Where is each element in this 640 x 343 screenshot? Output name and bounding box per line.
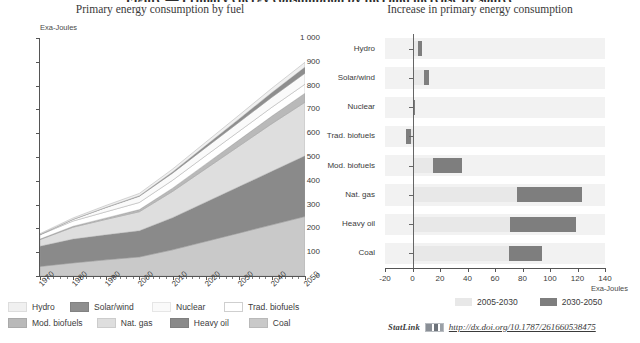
bar-segment-mod-biofuels-2030-2050	[433, 158, 462, 173]
left-x-tick-mark	[298, 276, 299, 279]
legend-label: 2005-2030	[477, 297, 518, 307]
left-x-tick-mark	[159, 276, 160, 279]
right-x-tick-label: 40	[454, 274, 482, 283]
bar-row-band-trad-biofuels	[385, 126, 605, 147]
left-x-tick-mark	[265, 276, 266, 279]
legend-swatch	[97, 318, 116, 328]
statlink-barcode-icon	[425, 323, 444, 332]
left-y-tick-mark	[36, 62, 40, 63]
bar-segment-coal-2005-2030	[413, 246, 509, 261]
legend-swatch	[8, 302, 27, 312]
right-x-tick-mark	[523, 268, 524, 272]
left-y-tick-label: 400	[292, 176, 320, 185]
left-y-axis-unit: Exa-Joules	[40, 23, 77, 32]
left-x-tick-mark	[100, 276, 101, 279]
left-y-tick-mark	[36, 109, 40, 110]
left-x-tick-mark	[166, 276, 167, 279]
bar-segment-mod-biofuels-2005-2030	[413, 158, 434, 173]
stacked-area-svg	[40, 38, 305, 276]
statlink-url-link[interactable]: http://dx.doi.org/10.1787/261660538475	[449, 322, 596, 332]
legend-item-2030-2050[interactable]: 2030-2050	[540, 297, 603, 307]
bar-segment-solar-wind-2005-2030	[413, 70, 424, 85]
bar-category-label-nat-gas: Nat. gas	[315, 190, 375, 199]
legend-label: Mod. biofuels	[32, 318, 83, 328]
right-x-tick-label: 0	[399, 274, 427, 283]
legend-row: Mod. biofuelsNat. gasHeavy oilCoal	[8, 316, 308, 329]
left-x-tick-mark	[192, 276, 193, 279]
bar-segment-hydro-2030-2050	[418, 41, 422, 56]
left-plot-area	[40, 38, 305, 276]
left-chart-title: Primary energy consumption by fuel	[0, 3, 320, 15]
right-x-axis-unit: Exa-Joules	[591, 284, 628, 293]
left-x-tick-mark	[259, 276, 260, 279]
right-chart-title: Increase in primary energy consumption	[320, 3, 640, 15]
statlink-label: StatLink	[388, 322, 420, 332]
legend-item-trad-biofuels[interactable]: Trad. biofuels	[224, 302, 304, 312]
left-y-tick-mark	[36, 252, 40, 253]
bar-category-label-mod-biofuels: Mod. biofuels	[315, 161, 375, 170]
increase-in-primary-energy-chart: HydroSolar/windNuclearTrad. biofuelsMod.…	[320, 20, 640, 285]
left-y-tick-label: 300	[292, 200, 320, 209]
left-y-tick-mark	[36, 133, 40, 134]
right-x-tick-label: 20	[426, 274, 454, 283]
left-x-tick-mark	[60, 276, 61, 279]
bar-segment-coal-2030-2050	[509, 246, 542, 261]
legend-label: Trad. biofuels	[248, 302, 299, 312]
left-y-tick-label: 800	[292, 81, 320, 90]
legend-swatch	[8, 318, 27, 328]
legend-swatch	[70, 302, 89, 312]
left-y-tick-mark	[36, 181, 40, 182]
legend-item-solar-wind[interactable]: Solar/wind	[70, 302, 152, 312]
legend-row: HydroSolar/windNuclearTrad. biofuels	[8, 300, 308, 313]
left-y-tick-label: 900	[292, 57, 320, 66]
bar-category-label-coal: Coal	[315, 248, 375, 257]
left-y-tick-mark	[36, 38, 40, 39]
right-plot-area: HydroSolar/windNuclearTrad. biofuelsMod.…	[385, 34, 605, 268]
legend-label: Nat. gas	[121, 318, 153, 328]
right-x-tick-mark	[578, 268, 579, 272]
bar-segment-nat-gas-2005-2030	[413, 187, 518, 202]
right-chart-legend: 2005-20302030-2050	[455, 297, 624, 307]
right-x-tick-label: 100	[536, 274, 564, 283]
right-x-tick-label: -20	[371, 274, 399, 283]
legend-item-coal[interactable]: Coal	[249, 318, 308, 328]
bar-segment-heavy-oil-2030-2050	[510, 217, 576, 232]
legend-item-nuclear[interactable]: Nuclear	[152, 302, 224, 312]
right-x-tick-label: 140	[591, 274, 619, 283]
left-x-tick-mark	[226, 276, 227, 279]
bar-category-label-solar-wind: Solar/wind	[315, 73, 375, 82]
bar-segment-nuclear-2030-2050	[414, 100, 416, 115]
left-x-tick-mark	[199, 276, 200, 279]
right-x-tick-mark	[440, 268, 441, 272]
legend-label: Nuclear	[176, 302, 205, 312]
left-x-tick-mark	[133, 276, 134, 279]
legend-swatch	[249, 318, 268, 328]
left-y-tick-mark	[36, 228, 40, 229]
legend-swatch	[170, 318, 189, 328]
legend-swatch	[152, 302, 171, 312]
left-x-tick-mark	[292, 276, 293, 279]
legend-item-mod-biofuels[interactable]: Mod. biofuels	[8, 318, 97, 328]
right-zero-axis-line	[413, 34, 414, 268]
left-y-tick-mark	[36, 205, 40, 206]
legend-label: 2030-2050	[562, 297, 603, 307]
primary-energy-by-fuel-chart: Exa-Joules 01002003004005006007008009001…	[0, 20, 320, 285]
legend-item-hydro[interactable]: Hydro	[8, 302, 70, 312]
left-x-tick-mark	[126, 276, 127, 279]
right-x-tick-mark	[468, 268, 469, 272]
legend-item-2005-2030[interactable]: 2005-2030	[455, 297, 518, 307]
left-y-tick-label: 1 000	[292, 33, 320, 42]
left-y-tick-mark	[36, 157, 40, 158]
legend-label: Coal	[273, 318, 290, 328]
legend-swatch	[224, 302, 243, 312]
right-x-tick-mark	[605, 268, 606, 272]
left-chart-legend: HydroSolar/windNuclearTrad. biofuelsMod.…	[8, 300, 308, 332]
right-x-tick-mark	[413, 268, 414, 272]
legend-item-heavy-oil[interactable]: Heavy oil	[170, 318, 249, 328]
legend-item-nat-gas[interactable]: Nat. gas	[97, 318, 170, 328]
right-x-tick-label: 120	[564, 274, 592, 283]
bar-segment-nat-gas-2030-2050	[517, 187, 582, 202]
left-x-tick-mark	[67, 276, 68, 279]
bar-category-label-hydro: Hydro	[315, 44, 375, 53]
left-x-tick-mark	[232, 276, 233, 279]
